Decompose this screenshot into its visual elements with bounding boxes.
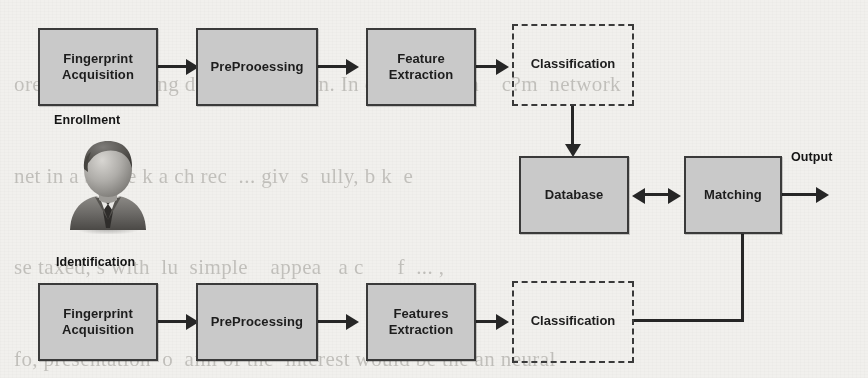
edge-db-matching-arrowhead-left	[632, 188, 645, 204]
node-label-line2: Extraction	[389, 322, 454, 338]
node-ident-features-extraction[interactable]: Features Extraction	[366, 283, 476, 361]
label-identification: Identification	[56, 255, 135, 269]
node-enroll-fingerprint-acquisition[interactable]: Fingerprint Acquisition	[38, 28, 158, 106]
node-matching[interactable]: Matching	[684, 156, 782, 234]
node-ident-preprocessing[interactable]: PreProcessing	[196, 283, 318, 361]
edge-db-matching-line	[643, 193, 671, 196]
node-label-line2: Acquisition	[62, 322, 134, 338]
label-enrollment: Enrollment	[54, 113, 120, 127]
edge-matching-to-output-arrowhead	[816, 187, 829, 203]
edge-ident-pre-to-feat-arrowhead	[346, 314, 359, 330]
node-label-line1: PreProoessing	[210, 59, 303, 75]
node-label-line1: Classification	[531, 56, 616, 71]
node-label-line1: Classification	[531, 313, 616, 328]
node-ident-fingerprint-acquisition[interactable]: Fingerprint Acquisition	[38, 283, 158, 361]
edge-ident-acq-to-pre-line	[158, 320, 186, 323]
node-enroll-classification[interactable]: Classification	[512, 24, 634, 106]
edge-enroll-pre-to-feat-arrowhead	[346, 59, 359, 75]
edge-enroll-class-to-db-line	[571, 106, 574, 144]
edge-matching-to-output-line	[782, 193, 816, 196]
node-enroll-preprocessing[interactable]: PreProoessing	[196, 28, 318, 106]
ghost-line: se taxed, s with lu simple appea a c f .…	[14, 252, 854, 283]
diagram-canvas: ore new task is ing difficult mission. I…	[0, 0, 868, 378]
edge-enroll-acq-to-pre-line	[158, 65, 186, 68]
node-ident-classification[interactable]: Classification	[512, 281, 634, 363]
node-label-line1: PreProcessing	[211, 314, 303, 330]
edge-ident-pre-to-feat-line	[318, 320, 346, 323]
edge-ident-class-to-matching-horizontal	[632, 319, 744, 322]
node-label-line1: Features	[389, 306, 454, 322]
node-label-line1: Fingerprint	[62, 306, 134, 322]
node-enroll-feature-extraction[interactable]: Feature Extraction	[366, 28, 476, 106]
label-output: Output	[791, 150, 833, 164]
node-label-line2: Acquisition	[62, 67, 134, 83]
node-label-line1: Feature	[389, 51, 454, 67]
edge-ident-feat-to-class-line	[476, 320, 496, 323]
edge-enroll-pre-to-feat-line	[318, 65, 346, 68]
edge-ident-feat-to-class-arrowhead	[496, 314, 509, 330]
node-label-line2: Extraction	[389, 67, 454, 83]
node-database[interactable]: Database	[519, 156, 629, 234]
node-label-line1: Fingerprint	[62, 51, 134, 67]
edge-ident-class-to-matching-vertical	[741, 231, 744, 320]
edge-enroll-feat-to-class-line	[476, 65, 496, 68]
user-avatar-icon	[62, 138, 154, 238]
edge-enroll-feat-to-class-arrowhead	[496, 59, 509, 75]
node-label-line1: Database	[545, 187, 604, 203]
node-label-line1: Matching	[704, 187, 762, 203]
edge-db-matching-arrowhead-right	[668, 188, 681, 204]
